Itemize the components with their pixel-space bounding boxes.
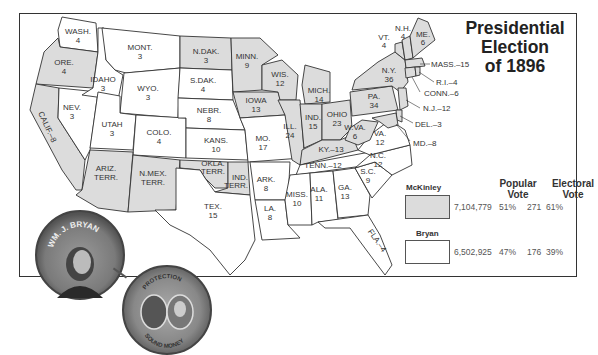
map-title: Presidential Election of 1896 xyxy=(455,19,575,76)
mckinley-electoral-pct: 61% xyxy=(546,202,563,212)
mckinley-popular-pct: 51% xyxy=(499,202,516,212)
label-vt: VT.4 xyxy=(378,33,390,50)
election-results-legend: PopularVote ElectoralVote McKinley 7,104… xyxy=(400,170,575,270)
label-okla: OKLA.TERR. xyxy=(201,159,225,176)
bryan-electoral-vote: 176 xyxy=(527,247,541,257)
label-nmex: N.MEX.TERR. xyxy=(139,169,167,187)
label-va: VA.12 xyxy=(374,129,386,147)
svg-text:PROTECTION: PROTECTION xyxy=(141,273,182,290)
svg-text:SOUND MONEY: SOUND MONEY xyxy=(144,332,185,349)
candidate-bryan-label: Bryan xyxy=(416,229,439,238)
label-tenn: TENN.–12 xyxy=(304,161,342,170)
label-pa: PA.34 xyxy=(368,92,380,110)
svg-text:WM. J. BRYAN: WM. J. BRYAN xyxy=(46,220,101,249)
electoral-vote-header: ElectoralVote xyxy=(548,178,598,200)
state-nj[interactable] xyxy=(398,88,408,110)
label-nj: N.J.–12 xyxy=(423,104,451,113)
label-ariz: ARIZ.TERR. xyxy=(94,164,118,182)
candidate-mckinley-label: McKinley xyxy=(406,183,441,192)
state-ri[interactable] xyxy=(415,67,420,76)
mckinley-color-swatch xyxy=(405,195,450,219)
bryan-popular-pct: 47% xyxy=(499,247,516,257)
mckinley-electoral-vote: 271 xyxy=(527,202,541,212)
bryan-button-art: WM. J. BRYAN xyxy=(37,212,123,298)
popular-vote-header: PopularVote xyxy=(493,178,543,200)
mckinley-button-art: PROTECTION SOUND MONEY xyxy=(124,267,210,353)
bryan-popular-vote: 6,502,925 xyxy=(454,247,492,257)
label-del: DEL.–3 xyxy=(415,120,442,129)
label-md: MD.–8 xyxy=(413,139,437,148)
state-mass[interactable] xyxy=(405,58,425,68)
bryan-color-swatch xyxy=(405,240,450,264)
state-conn[interactable] xyxy=(405,67,416,78)
label-ky: KY.–13 xyxy=(318,145,344,154)
label-ri: R.I.–4 xyxy=(436,78,458,87)
mckinley-campaign-button: PROTECTION SOUND MONEY xyxy=(122,265,212,355)
state-ny[interactable] xyxy=(352,52,408,92)
label-conn: CONN.–6 xyxy=(424,89,459,98)
mckinley-popular-vote: 7,104,779 xyxy=(454,202,492,212)
bryan-campaign-button: WM. J. BRYAN xyxy=(35,210,125,300)
bryan-electoral-pct: 39% xyxy=(546,247,563,257)
